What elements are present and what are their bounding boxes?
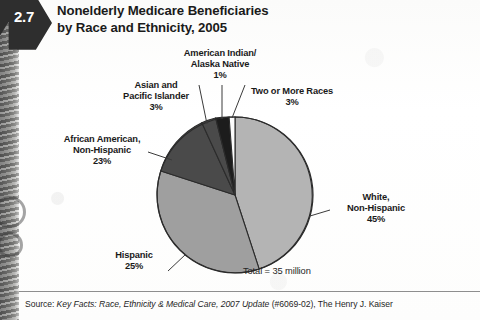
label-white-line-2: Non-Hispanic	[347, 203, 405, 213]
chart-total-label: Total = 35 million	[243, 266, 311, 276]
pie-slices	[157, 117, 313, 273]
label-white-pct: 45%	[328, 214, 424, 225]
label-american-indian-line-2: Alaska Native	[191, 59, 250, 69]
footnote-divider	[19, 291, 480, 292]
label-asian-line-1: Asian and	[134, 80, 177, 90]
label-white-line-1: White,	[363, 192, 390, 202]
label-african-american-pct: 23%	[43, 156, 161, 167]
figure-number-label: 2.7	[2, 8, 46, 25]
source-title: Key Facts: Race, Ethnicity & Medical Car…	[57, 299, 270, 309]
page-title: Nonelderly Medicare Beneficiaries by Rac…	[57, 3, 457, 36]
leader-line-white	[310, 210, 330, 216]
label-asian-pct: 3%	[104, 102, 208, 113]
source-note: Source: Key Facts: Race, Ethnicity & Med…	[25, 299, 477, 310]
label-american-indian-alaska-native: American Indian/ Alaska Native 1%	[155, 48, 285, 82]
label-two-or-more-pct: 3%	[238, 97, 346, 108]
label-african-american-line-1: African American,	[64, 134, 141, 144]
source-prefix: Source:	[25, 299, 57, 309]
title-line-1: Nonelderly Medicare Beneficiaries	[57, 3, 268, 18]
label-african-american-line-2: Non-Hispanic	[73, 145, 131, 155]
label-hispanic-pct: 25%	[96, 261, 172, 272]
label-hispanic: Hispanic 25%	[96, 250, 172, 272]
label-asian-line-2: Pacific Islander	[123, 91, 189, 101]
pie-chart: American Indian/ Alaska Native 1% Two or…	[0, 40, 480, 290]
label-two-or-more-line-1: Two or More Races	[251, 86, 333, 96]
source-publisher: (#6069-02), The Henry J. Kaiser	[269, 299, 392, 309]
label-white-non-hispanic: White, Non-Hispanic 45%	[328, 192, 424, 226]
label-american-indian-line-1: American Indian/	[184, 48, 257, 58]
label-two-or-more-races: Two or More Races 3%	[238, 86, 346, 108]
title-line-2: by Race and Ethnicity, 2005	[57, 20, 457, 37]
label-african-american-non-hispanic: African American, Non-Hispanic 23%	[43, 134, 161, 168]
label-asian-pacific-islander: Asian and Pacific Islander 3%	[104, 80, 208, 114]
label-hispanic-line-1: Hispanic	[115, 250, 153, 260]
